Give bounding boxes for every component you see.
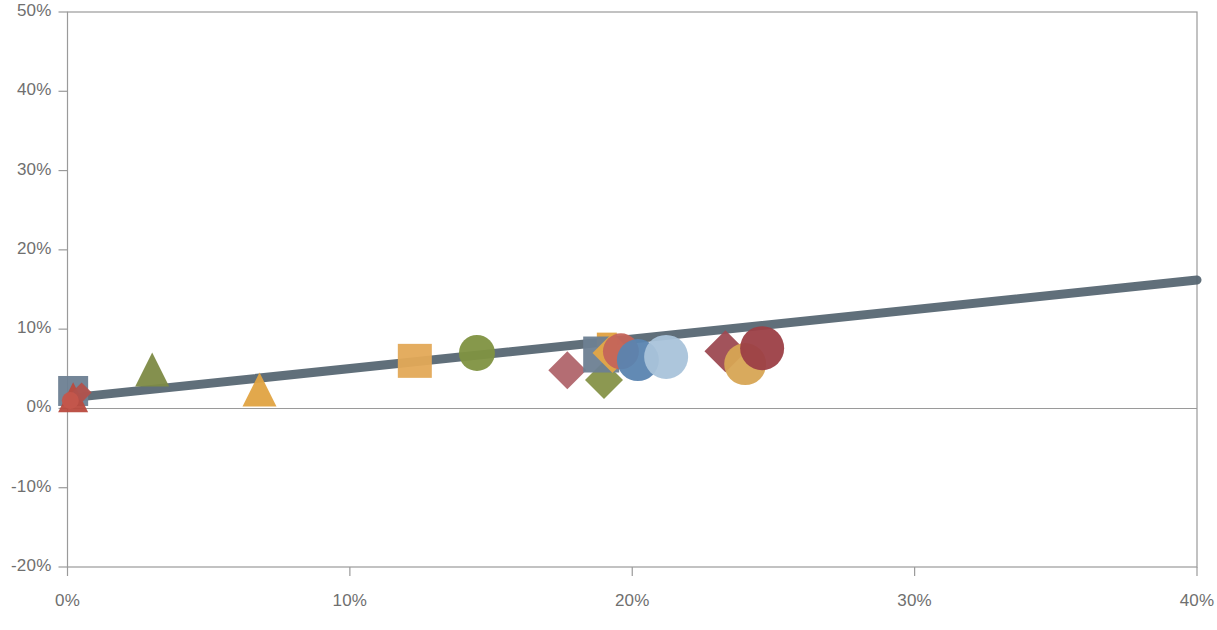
y-tick-label: 10% (0, 318, 52, 338)
data-point-marker[interactable] (459, 335, 495, 371)
y-tick-label: 0% (0, 397, 52, 417)
y-tick-label: -20% (0, 556, 52, 576)
data-point-marker[interactable] (548, 351, 586, 389)
y-tick-label: 40% (0, 80, 52, 100)
x-tick-label: 30% (855, 591, 975, 611)
data-point-marker[interactable] (398, 344, 432, 378)
scatter-chart: -20%-10%0%10%20%30%40%50%0%10%20%30%40% (0, 0, 1217, 630)
plot-canvas (0, 0, 1217, 630)
data-point-marker[interactable] (62, 392, 79, 409)
y-tick-label: -10% (0, 477, 52, 497)
data-point-marker[interactable] (135, 353, 169, 387)
data-point-marker[interactable] (644, 335, 688, 379)
x-tick-label: 0% (8, 591, 128, 611)
y-tick-label: 50% (0, 1, 52, 21)
y-tick-label: 20% (0, 239, 52, 259)
data-point-marker[interactable] (740, 326, 784, 370)
x-tick-label: 20% (572, 591, 692, 611)
x-tick-label: 40% (1137, 591, 1217, 611)
plot-frame (68, 12, 1198, 567)
y-tick-label: 30% (0, 160, 52, 180)
x-tick-label: 10% (290, 591, 410, 611)
